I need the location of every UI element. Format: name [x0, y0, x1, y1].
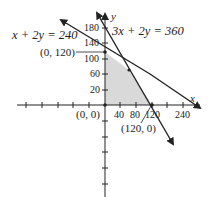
y-tick-100: 100 — [84, 54, 99, 64]
y-axis-label: y — [111, 11, 116, 22]
x-axis-label: x — [190, 93, 195, 104]
equation-label-1: x + 2y = 240 — [12, 29, 77, 42]
point-intersection — [127, 68, 130, 71]
x-tick-240: 240 — [175, 110, 190, 120]
equation-label-2-text: 3x + 2y = 360 — [112, 24, 184, 38]
x-tick-120: 120 — [145, 110, 160, 120]
equation-label-2: 3x + 2y = 360 — [112, 25, 184, 38]
y-tick-20: 20 — [90, 85, 100, 95]
point-label-0-0: (0, 0) — [76, 109, 100, 120]
point-label-0-120: (0, 120) — [40, 47, 75, 58]
x-tick-80: 80 — [130, 110, 140, 120]
x-tick-40: 40 — [114, 110, 124, 120]
y-tick-60: 60 — [90, 69, 100, 79]
point-0-0 — [103, 103, 107, 107]
point-label-120-0: (120, 0) — [121, 123, 156, 134]
y-tick-180: 180 — [84, 23, 99, 33]
y-tick-140: 140 — [84, 38, 99, 48]
